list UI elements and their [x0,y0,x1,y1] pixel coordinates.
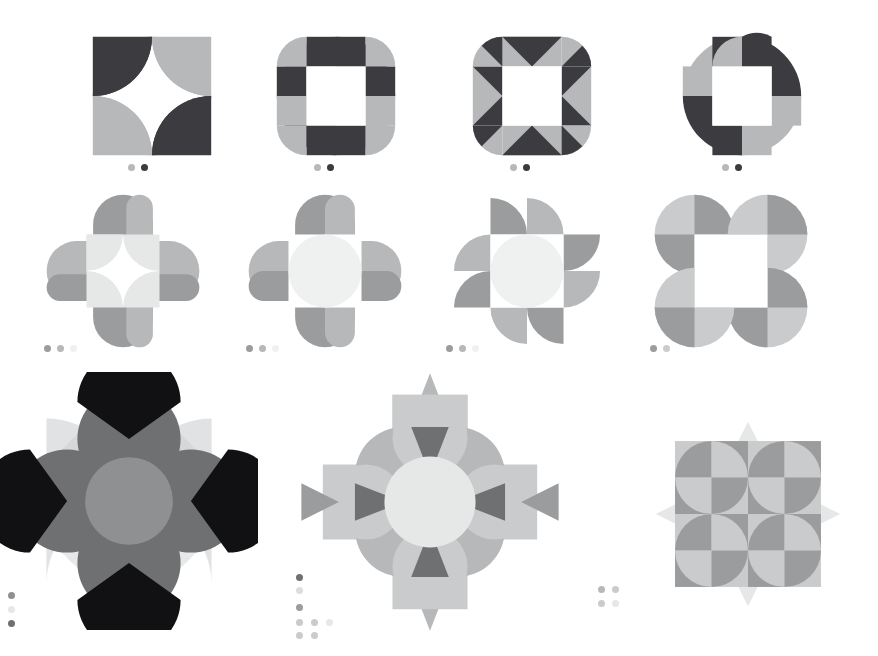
color-swatch-dot [57,345,64,352]
pattern-pinwheel-leaf-two-tone [78,22,226,170]
color-swatch-dot [459,345,466,352]
color-swatch-dot [472,345,479,352]
pattern-triangular-fan-star [458,22,606,170]
pattern-four-disc-open-square [648,188,814,354]
color-swatch-dot [272,345,279,352]
color-swatch-dot [446,345,453,352]
color-swatch-dot [296,587,303,594]
color-swatch-dot [246,345,253,352]
pattern-rounded-cross-disc-center [242,188,408,354]
pattern-sheet-canvas [0,0,878,656]
pattern-quarter-circle-grid-star [652,418,844,610]
color-swatch-dot [598,586,605,593]
color-swatch-dot [8,592,15,599]
color-swatch-dot [523,164,530,171]
color-swatch-dot [70,345,77,352]
pattern-rounded-square-petal-medallion [296,368,564,636]
color-swatch-dot [650,345,657,352]
color-swatch-dot [296,619,303,626]
color-swatch-dot [296,604,303,611]
color-swatch-dot [128,164,135,171]
color-swatch-dot [598,600,605,607]
color-swatch-dot [311,632,318,639]
color-swatch-dot [326,619,333,626]
pattern-overlapping-disc-rosette [0,372,258,630]
color-swatch-dot [612,600,619,607]
color-swatch-dot [722,164,729,171]
color-swatch-dot [612,586,619,593]
pattern-quarter-circle-pinwheel [668,22,816,170]
color-swatch-dot [141,164,148,171]
pattern-spiral-petal-disc [444,188,610,354]
color-swatch-dot [8,606,15,613]
pattern-rounded-cross-star-center [40,188,206,354]
color-swatch-dot [735,164,742,171]
color-swatch-dot [296,632,303,639]
color-swatch-dot [327,164,334,171]
color-swatch-dot [314,164,321,171]
color-swatch-dot [311,619,318,626]
color-swatch-dot [663,345,670,352]
color-swatch-dot [44,345,51,352]
color-swatch-dot [510,164,517,171]
color-swatch-dot [8,620,15,627]
pattern-quatrefoil-checker-petals [262,22,410,170]
color-swatch-dot [296,574,303,581]
color-swatch-dot [259,345,266,352]
